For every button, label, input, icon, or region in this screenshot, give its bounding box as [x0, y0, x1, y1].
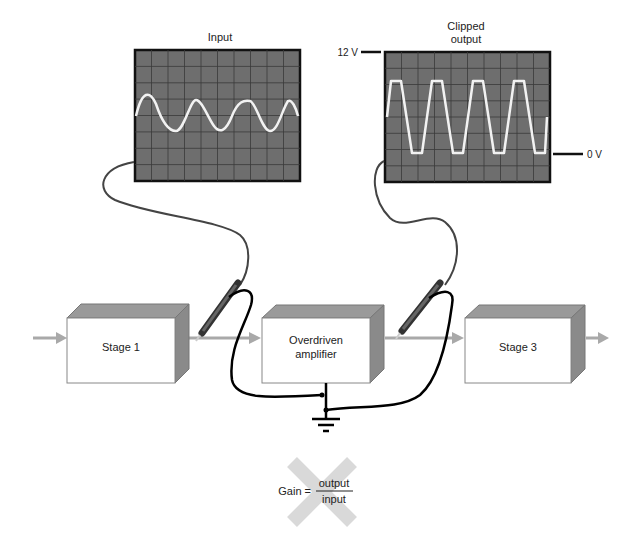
- 12v-label: 12 V: [337, 47, 358, 58]
- svg-text:input: input: [322, 493, 346, 505]
- svg-text:Gain =: Gain =: [278, 485, 311, 497]
- svg-text:Stage 1: Stage 1: [102, 341, 140, 353]
- input-scope-title: Input: [208, 31, 232, 43]
- input-oscilloscope: [135, 50, 300, 181]
- svg-text:amplifier: amplifier: [295, 348, 337, 360]
- output-scope-title-2: output: [451, 33, 482, 45]
- svg-text:output: output: [319, 477, 350, 489]
- output-oscilloscope: [385, 52, 550, 182]
- stage-1-box: Stage 1: [67, 304, 189, 383]
- output-scope-title-1: Clipped: [447, 20, 484, 32]
- 0v-label: 0 V: [587, 149, 602, 160]
- ground-symbol: [312, 383, 340, 431]
- overdriven-amplifier-box: Overdriven amplifier: [262, 305, 384, 383]
- output-probe: [396, 283, 440, 339]
- svg-text:Stage 3: Stage 3: [499, 341, 537, 353]
- signal-chain-diagram: Input Clipped output: [0, 0, 632, 538]
- svg-text:Overdriven: Overdriven: [289, 334, 343, 346]
- input-probe: [196, 283, 238, 341]
- stage-3-box: Stage 3: [465, 305, 585, 383]
